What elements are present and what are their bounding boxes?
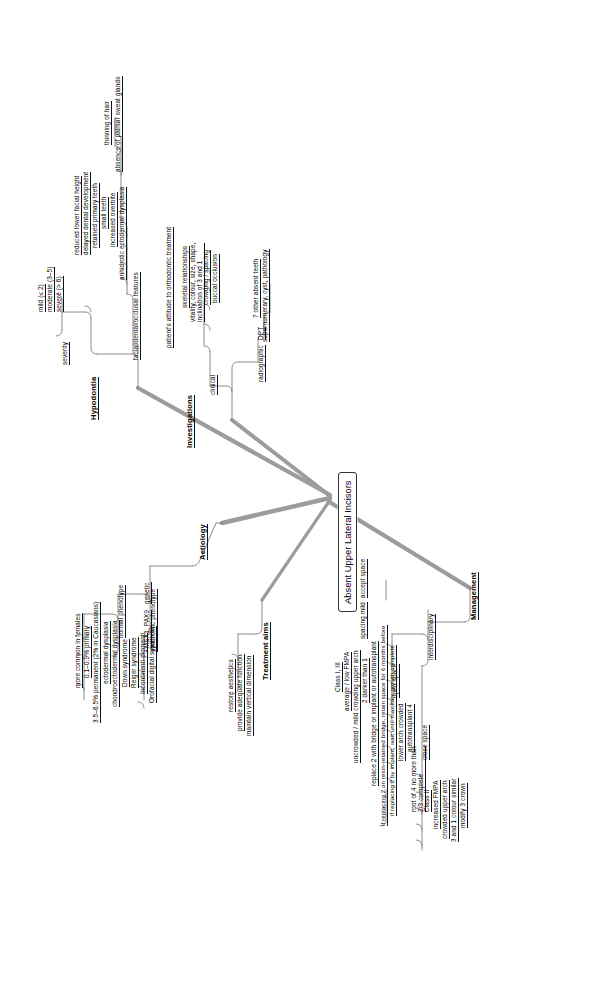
open-space-item-replace-2-bridge-implant[interactable]: replace 2 with bridge or implant or auto… [371, 641, 379, 786]
open-space-item-autotransplant-4[interactable]: autotransplant 4 [407, 704, 415, 752]
hypodontia-label: Hypodontia [90, 377, 99, 420]
severity-item-mild[interactable]: mild (≤ 2) [38, 284, 46, 312]
normal-item-primary-prevalence[interactable]: 0.1–0.9% primary [84, 626, 92, 678]
close-space-item-class-ii[interactable]: Class II [424, 790, 432, 812]
feature-anhidrotic-ectodermal-dysplasia[interactable]: anhidrotic ectodermal dysplasia [119, 187, 127, 280]
open-space-item-2-darker-than-1[interactable]: 2 darker than 1 [362, 658, 370, 703]
normal-item-chondroectodermal-dysplasia[interactable]: chondroectodermal dysplasia [112, 620, 120, 707]
treatment-aim-provide-adequate-function[interactable]: provide adequate function [237, 654, 245, 731]
feature-reduced-lower-facial-height[interactable]: reduced lower facial height [74, 176, 82, 255]
feature-retained-primary-teeth[interactable]: retained primary teeth [92, 183, 100, 248]
anhidrotic-child-absence-of-palmar-sweat-glands[interactable]: absence of palmar sweat glands [115, 77, 123, 173]
open-space-item-average-low-fmpa[interactable]: average / low FMPA [344, 652, 352, 711]
syndromic-item-reiger-syndrome[interactable]: Reiger syndrome [131, 637, 139, 688]
severity-item-moderate[interactable]: moderate (3–5) [47, 267, 55, 312]
close-space-item-crowded-upper-arch[interactable]: crowded upper arch [442, 780, 450, 839]
branch-hypodontia[interactable]: Hypodontia [90, 377, 99, 420]
management-close-space[interactable]: close space [422, 725, 430, 760]
dpt-item-other-absent-teeth[interactable]: ? other absent teeth [253, 259, 261, 318]
investigations-radiographic[interactable]: radiographic [258, 345, 266, 382]
clinical-item-buccal-occlusion[interactable]: buccal occlusion [212, 254, 220, 303]
open-space-item-lower-arch-crowded[interactable]: lower arch crowded [398, 703, 406, 761]
normal-item-permanent-prevalence[interactable]: 3.5–6.5% permanent (2% in Caucasians) [93, 602, 101, 723]
syndromic-item-incontinenti-pigmenti[interactable]: Incontinenti pigmenti [140, 633, 148, 694]
close-space-item-modify-3-crown[interactable]: modify 3 crown [460, 783, 468, 828]
hypodontia-features[interactable]: facial/dental/occlusal features [133, 272, 141, 360]
severity-label: severity [62, 342, 70, 365]
anhidrotic-child-thinning-of-hair[interactable]: thinning of hair [104, 101, 112, 145]
normal-item-more-common-in-females[interactable]: more common in females [75, 613, 83, 688]
management-interdisciplinary[interactable]: interdisciplinary [428, 614, 436, 660]
feature-delayed-dental-development[interactable]: delayed dental development [83, 172, 91, 255]
treatment-aim-maintain-vertical-dimension[interactable]: maintain vertical dimension [246, 655, 254, 736]
clinical-item-crowding-spacing[interactable]: crowding / spacing [203, 250, 211, 305]
close-space-item-increased-fmpa[interactable]: increased FMPA [433, 780, 441, 829]
management-accept-space[interactable]: accept space [360, 559, 368, 598]
management-spacing-mild[interactable]: spacing mild [360, 602, 368, 639]
open-space-item-uncrowded-mild-crowding[interactable]: uncrowded / mild crowding upper arch [353, 650, 361, 763]
feature-increased-overbite[interactable]: increased overbite [110, 192, 118, 247]
branch-management[interactable]: Management [470, 572, 479, 620]
hypodontia-severity[interactable]: severity [62, 342, 70, 365]
connector-lines [0, 0, 593, 994]
severity-item-severe[interactable]: severe (> 6) [56, 276, 64, 312]
branch-treatment-aims[interactable]: Treatment aims [262, 622, 271, 680]
feature-small-teeth[interactable]: small teeth [101, 197, 109, 229]
normal-item-ectodermal-dysplasia[interactable]: ectodermal dysplasia [103, 621, 111, 684]
investigations-clinical[interactable]: clinical [210, 375, 218, 395]
syndromic-item-orofacial-digital-syndrome[interactable]: Orofacial digital syndrome [149, 626, 157, 703]
treatment-aim-restore-aesthetics[interactable]: restore aesthetics [228, 659, 236, 712]
syndromic-item-down-syndrome[interactable]: Down syndrome [122, 639, 130, 687]
open-space-item-class-i-iii[interactable]: Class I, III [335, 662, 343, 692]
branch-investigations[interactable]: Investigations [186, 395, 195, 448]
clinical-item-attitude[interactable]: patient's attitude to orthodontic treatm… [166, 227, 174, 348]
root-label: Absent Upper Lateral Incisors [342, 480, 353, 604]
mindmap-canvas: Absent Upper Lateral Incisors Hypodontia… [0, 0, 593, 994]
open-space-item-resin-retained-bridge[interactable]: if replacing 2 on resin-retained bridge,… [380, 625, 388, 826]
branch-aetiology[interactable]: Aetiology [199, 524, 208, 560]
close-space-item-3-and-1-colour-similar[interactable]: 3 and 1 colour similar [451, 778, 459, 842]
dpt-item-supernumerary-cyst-pathology[interactable]: supernumerary, cyst, pathology [262, 249, 270, 342]
open-space-item-implant-growth-complete[interactable]: if replacing 2 by implant, wait until ma… [389, 645, 397, 816]
root-node[interactable]: Absent Upper Lateral Incisors [338, 472, 357, 612]
